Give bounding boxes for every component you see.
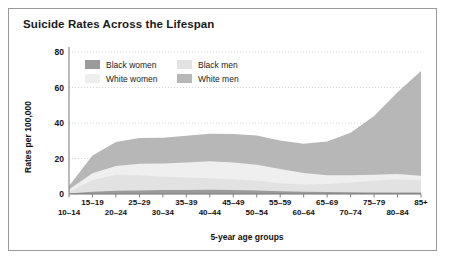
x-tick: 85+ — [414, 198, 428, 207]
y-tick: 40 — [55, 118, 65, 128]
x-tick: 50–54 — [246, 208, 269, 217]
x-tick: 75–79 — [363, 198, 386, 207]
x-tick: 25–29 — [128, 198, 151, 207]
x-tick: 20–24 — [105, 208, 128, 217]
y-tick: 60 — [55, 83, 65, 93]
legend-item: White women — [85, 74, 158, 84]
stacked-areas — [69, 71, 421, 194]
y-tick: 0 — [59, 189, 64, 199]
x-tick: 80–84 — [386, 208, 409, 217]
legend: Black womenBlack menWhite womenWhite men — [85, 60, 239, 84]
y-tick: 80 — [55, 47, 65, 57]
legend-label: White men — [198, 74, 239, 84]
y-tick: 20 — [55, 154, 65, 164]
x-axis-label: 5-year age groups — [210, 232, 283, 242]
x-tick: 15–19 — [81, 198, 104, 207]
x-tick: 45–49 — [222, 198, 245, 207]
chart-area: 020406080 10–1415–1920–2425–2930–3435–39… — [9, 9, 438, 252]
y-axis-label: Rates per 100,000 — [23, 101, 33, 173]
legend-item: Black women — [85, 60, 157, 70]
x-tick: 70–74 — [339, 208, 362, 217]
legend-item: White men — [177, 74, 239, 84]
x-tick: 55–59 — [269, 198, 292, 207]
area-chart: 020406080 10–1415–1920–2425–2930–3435–39… — [9, 9, 438, 252]
legend-label: Black women — [106, 60, 157, 70]
x-tick: 60–64 — [293, 208, 316, 217]
figure-frame: Suicide Rates Across the Lifespan 020406… — [8, 8, 437, 251]
y-tick-labels: 020406080 — [55, 47, 65, 199]
legend-label: White women — [106, 74, 158, 84]
legend-label: Black men — [198, 60, 238, 70]
legend-swatch — [85, 74, 100, 83]
legend-swatch — [177, 60, 192, 69]
legend-swatch — [85, 60, 100, 69]
x-tick: 10–14 — [58, 208, 81, 217]
x-tick: 65–69 — [316, 198, 339, 207]
legend-swatch — [177, 74, 192, 83]
x-tick: 40–44 — [199, 208, 222, 217]
x-tick: 30–34 — [152, 208, 175, 217]
legend-item: Black men — [177, 60, 238, 70]
x-tick-labels: 10–1415–1920–2425–2930–3435–3940–4445–49… — [58, 198, 428, 217]
x-tick: 35–39 — [175, 198, 198, 207]
